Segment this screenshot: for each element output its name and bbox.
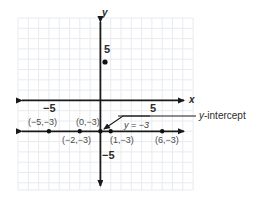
x-tick-label-neg5: −5 xyxy=(43,103,56,114)
x-tick-label-5: 5 xyxy=(150,103,156,114)
coordinate-plane-figure: −5 5 5 −5 x y (−5,−3) (0,−3) (−2,−3) (1,… xyxy=(0,0,260,198)
point-1-neg3 xyxy=(109,129,113,133)
point-label-neg2-neg3: (−2,−3) xyxy=(62,136,91,145)
point-label-neg5-neg3: (−5,−3) xyxy=(28,118,57,127)
point-label-0-neg3: (0,−3) xyxy=(76,118,100,127)
point-label-6-neg3: (6,−3) xyxy=(155,136,179,145)
point-neg2-neg3 xyxy=(78,129,82,133)
point-0-neg3 xyxy=(98,129,102,133)
y-tick-label-neg5: −5 xyxy=(102,150,115,161)
point-neg5-neg3 xyxy=(47,129,51,133)
x-axis-label: x xyxy=(189,95,195,105)
point-0-5 xyxy=(102,59,107,64)
y-intercept-label: y-intercept xyxy=(199,111,246,121)
equation-label: y = −3 xyxy=(124,121,149,130)
y-tick-label-5: 5 xyxy=(104,44,110,55)
graph-canvas xyxy=(0,0,260,198)
y-axis-label: y xyxy=(102,8,108,18)
point-6-neg3 xyxy=(160,129,164,133)
y-intercept-label-rest: -intercept xyxy=(204,110,246,121)
point-label-1-neg3: (1,−3) xyxy=(110,136,134,145)
